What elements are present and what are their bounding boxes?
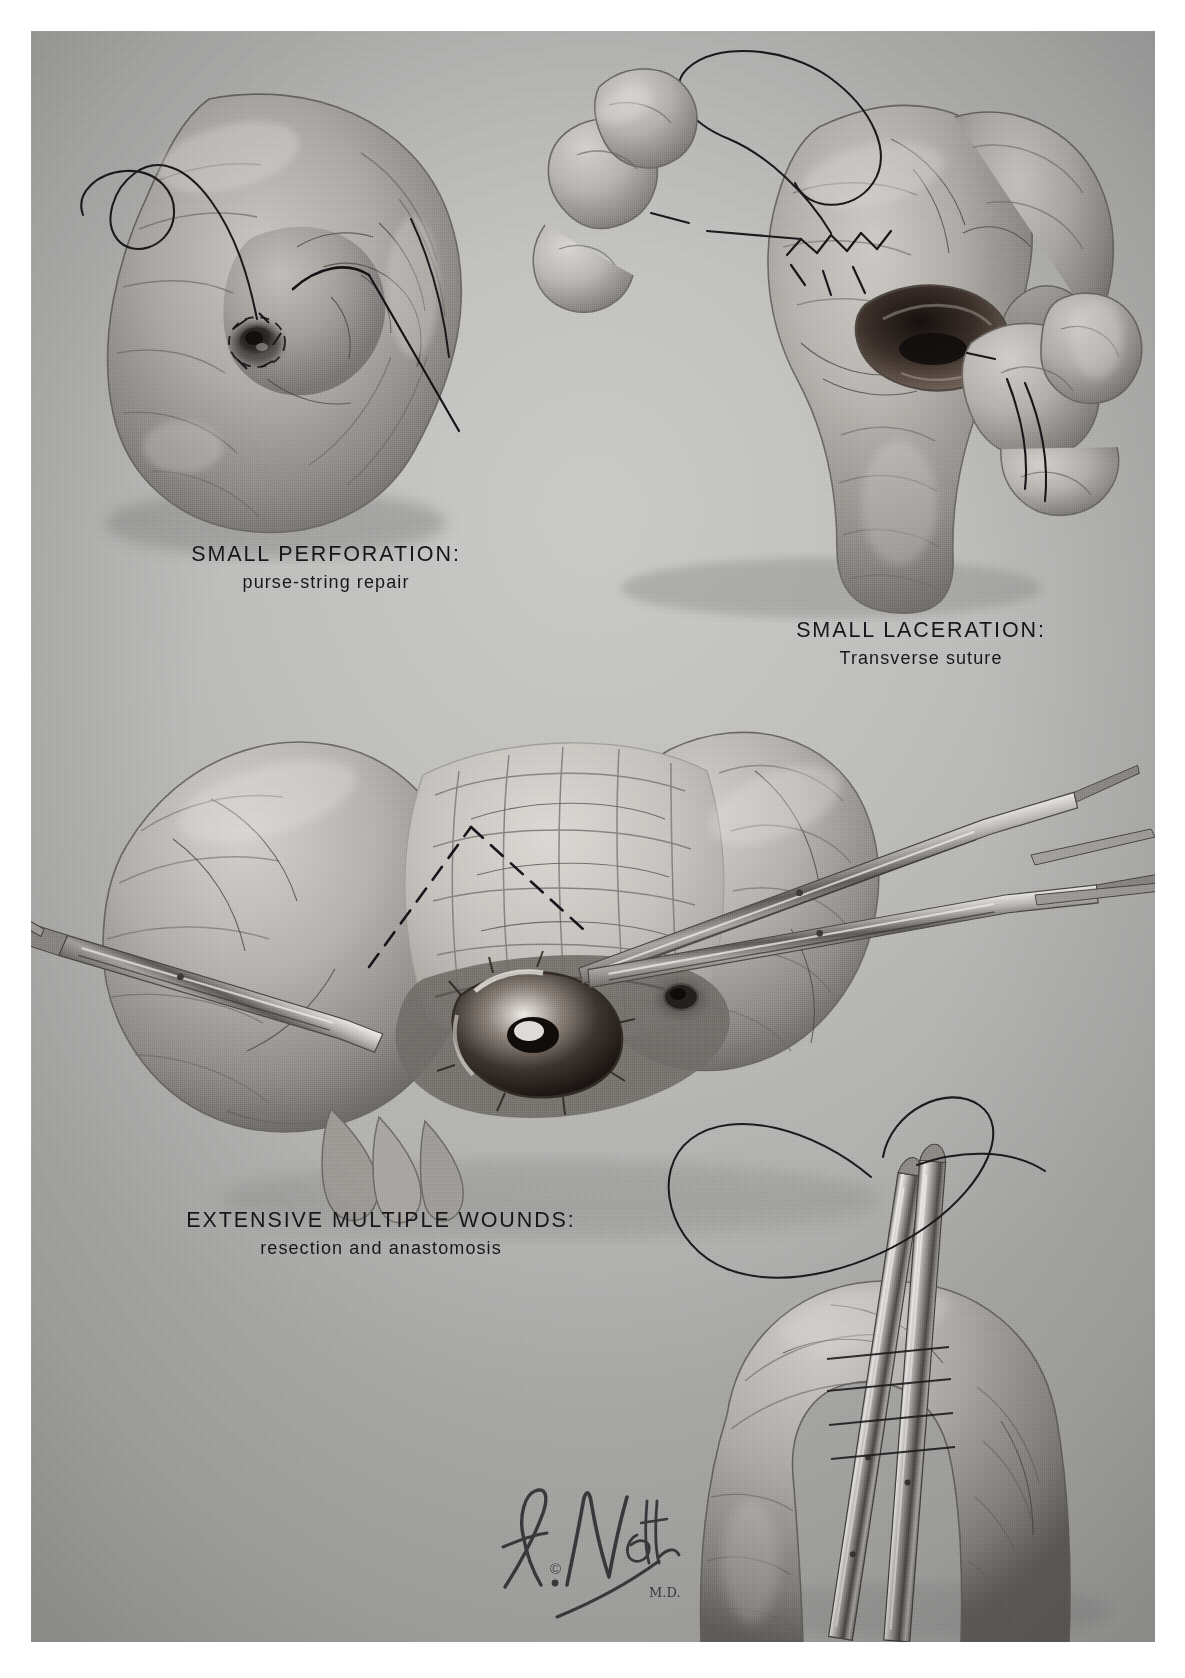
caption-title: SMALL PERFORATION: [161,543,491,566]
artist-signature: M.D. [461,1431,681,1621]
caption-subtitle: Transverse suture [721,649,1121,668]
satellite-perforation [657,981,705,1017]
caption-title: SMALL LACERATION: [721,619,1121,642]
figure-anastomosis-inset [631,1091,1151,1642]
illustration-plate: SMALL PERFORATION: purse-string repair [31,31,1155,1642]
figure-small-laceration [501,43,1141,623]
signature-credential: M.D. [649,1585,681,1600]
caption-small-perforation: SMALL PERFORATION: purse-string repair [161,543,491,591]
caption-title: EXTENSIVE MULTIPLE WOUNDS: [171,1209,591,1232]
figure-small-perforation [61,61,491,561]
surgeon-left-hand [533,69,697,312]
copyright-mark: © [550,1560,561,1577]
caption-extensive-multiple-wounds: EXTENSIVE MULTIPLE WOUNDS: resection and… [171,1209,591,1257]
caption-subtitle: purse-string repair [161,573,491,592]
caption-small-laceration: SMALL LACERATION: Transverse suture [721,619,1121,667]
caption-subtitle: resection and anastomosis [171,1239,591,1258]
